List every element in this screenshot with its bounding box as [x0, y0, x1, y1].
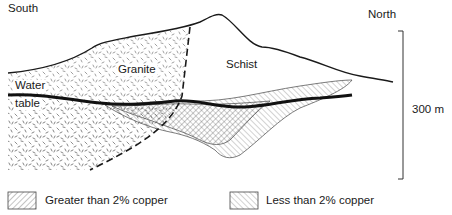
- scale-bar: [398, 31, 403, 179]
- legend-swatch-low-grade: [230, 192, 258, 209]
- legend-label-high-grade: Greater than 2% copper: [45, 195, 168, 207]
- label-table: table: [14, 98, 41, 110]
- label-north: North: [368, 9, 396, 21]
- legend-label-low-grade: Less than 2% copper: [266, 195, 374, 207]
- label-schist: Schist: [226, 59, 257, 71]
- scale-label: 300 m: [412, 104, 444, 116]
- label-granite: Granite: [117, 64, 157, 76]
- legend-swatch-high-grade: [8, 192, 36, 209]
- cross-section-diagram: [0, 0, 452, 215]
- label-water: Water: [14, 80, 46, 92]
- label-south: South: [8, 3, 38, 15]
